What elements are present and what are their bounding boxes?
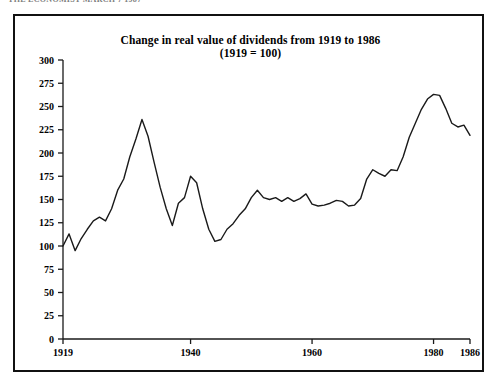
svg-text:200: 200 — [39, 148, 54, 159]
svg-text:1960: 1960 — [302, 347, 322, 358]
svg-text:25: 25 — [44, 310, 54, 321]
svg-text:1980: 1980 — [424, 347, 444, 358]
svg-text:1986: 1986 — [460, 347, 480, 358]
svg-text:1940: 1940 — [181, 347, 201, 358]
figure-page: THE ECONOMIST MARCH 7 1987 Change in rea… — [0, 0, 497, 385]
svg-text:250: 250 — [39, 101, 54, 112]
running-header: THE ECONOMIST MARCH 7 1987 — [8, 0, 258, 6]
y-axis: 0255075100125150175200225250275300 — [39, 55, 63, 345]
svg-text:125: 125 — [39, 217, 54, 228]
svg-text:275: 275 — [39, 78, 54, 89]
svg-text:225: 225 — [39, 124, 54, 135]
svg-text:75: 75 — [44, 264, 54, 275]
data-series-line — [63, 94, 470, 250]
svg-text:300: 300 — [39, 55, 54, 66]
chart-plot: 0255075100125150175200225250275300 19191… — [15, 16, 486, 374]
svg-text:50: 50 — [44, 287, 54, 298]
svg-text:0: 0 — [49, 334, 54, 345]
figure-border: Change in real value of dividends from 1… — [13, 14, 484, 372]
svg-text:1919: 1919 — [53, 347, 73, 358]
svg-text:150: 150 — [39, 194, 54, 205]
svg-text:100: 100 — [39, 241, 54, 252]
svg-text:175: 175 — [39, 171, 54, 182]
x-axis: 19191940196019801986 — [53, 339, 480, 358]
